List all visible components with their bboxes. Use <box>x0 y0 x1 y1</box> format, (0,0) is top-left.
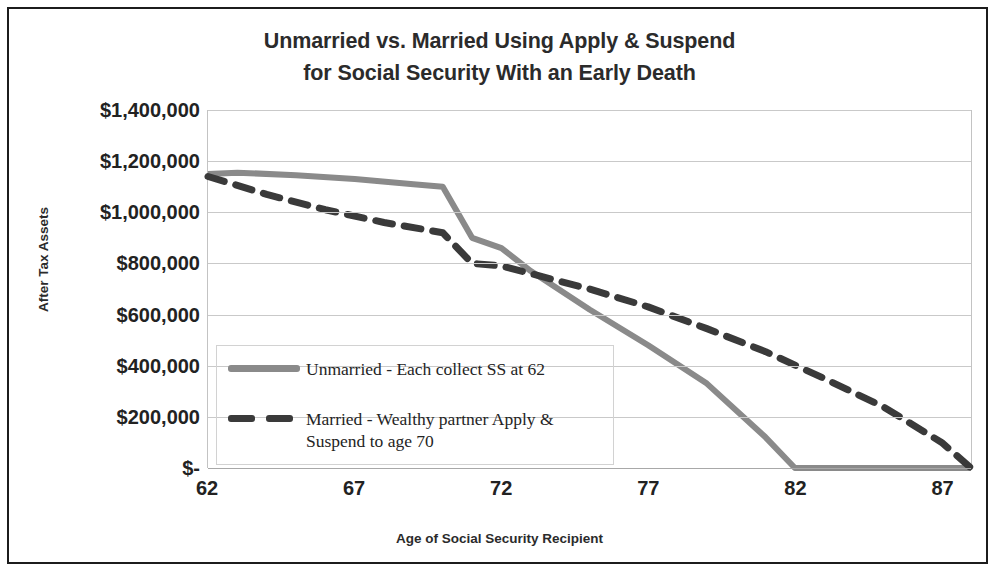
legend-swatch-solid-line-icon <box>228 365 300 372</box>
legend-label-unmarried: Unmarried - Each collect SS at 62 <box>306 358 545 380</box>
y-tick-label: $400,000 <box>35 354 200 377</box>
gridline <box>208 263 971 264</box>
legend-item-unmarried: Unmarried - Each collect SS at 62 <box>217 358 613 380</box>
y-tick-label: $1,200,000 <box>35 150 200 173</box>
y-tick-label: $600,000 <box>35 303 200 326</box>
gridline <box>208 468 971 469</box>
x-axis-title: Age of Social Security Recipient <box>9 531 990 546</box>
x-tick-label: 77 <box>637 477 659 500</box>
y-tick-label: $1,000,000 <box>35 201 200 224</box>
legend-item-married: Married - Wealthy partner Apply & Suspen… <box>217 408 613 453</box>
x-tick-label: 62 <box>196 477 218 500</box>
gridline <box>208 315 971 316</box>
y-tick-label: $- <box>35 457 200 480</box>
y-axis-tick-labels: $1,400,000$1,200,000$1,000,000$800,000$6… <box>30 9 200 566</box>
x-tick-label: 67 <box>343 477 365 500</box>
chart-frame: Unmarried vs. Married Using Apply & Susp… <box>7 7 988 564</box>
y-tick-label: $200,000 <box>35 405 200 428</box>
x-tick-label: 82 <box>784 477 806 500</box>
x-axis-tick-labels: 626772778287 <box>207 477 972 517</box>
gridline <box>208 212 971 213</box>
legend-swatch-dashed-line-icon <box>228 415 300 422</box>
gridline <box>208 110 971 111</box>
y-tick-label: $1,400,000 <box>35 99 200 122</box>
legend-label-married-line-2: Suspend to age 70 <box>306 431 434 451</box>
chart-legend: Unmarried - Each collect SS at 62 Marrie… <box>216 345 614 465</box>
legend-label-married-line-1: Married - Wealthy partner Apply & <box>306 409 554 429</box>
y-tick-label: $800,000 <box>35 252 200 275</box>
x-tick-label: 87 <box>931 477 953 500</box>
legend-label-married: Married - Wealthy partner Apply & Suspen… <box>306 408 606 453</box>
gridline <box>208 161 971 162</box>
x-tick-label: 72 <box>490 477 512 500</box>
